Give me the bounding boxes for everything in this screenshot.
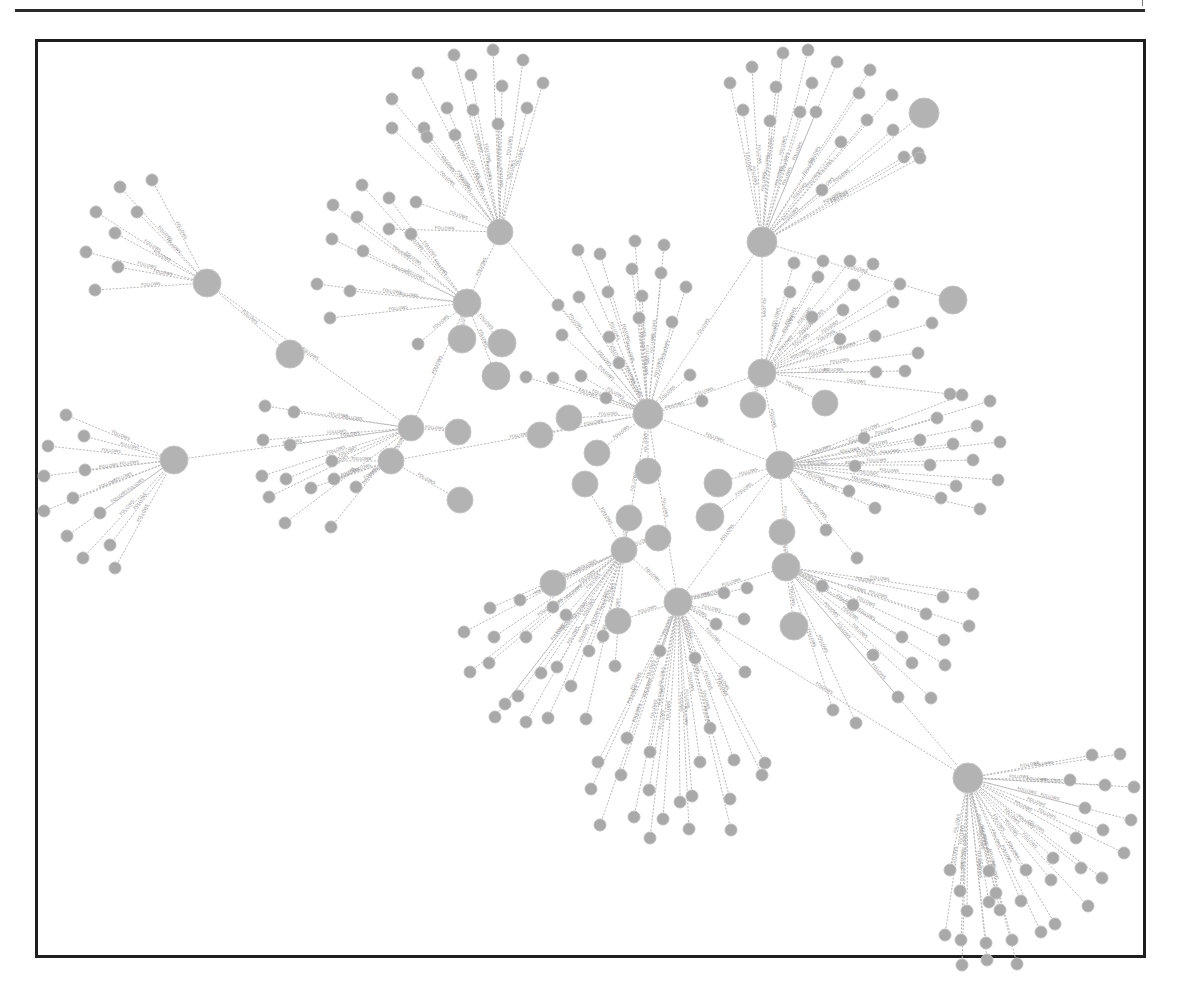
leaf-node[interactable] bbox=[1097, 824, 1109, 836]
leaf-node[interactable] bbox=[971, 420, 983, 432]
leaf-node[interactable] bbox=[684, 369, 696, 381]
leaf-node[interactable] bbox=[939, 929, 951, 941]
leaf-node[interactable] bbox=[109, 562, 121, 574]
leaf-node[interactable] bbox=[603, 331, 615, 343]
leaf-node[interactable] bbox=[109, 227, 121, 239]
leaf-node[interactable] bbox=[980, 937, 992, 949]
leaf-node[interactable] bbox=[386, 122, 398, 134]
leaf-node[interactable] bbox=[1096, 872, 1108, 884]
leaf-node[interactable] bbox=[1006, 934, 1018, 946]
leaf-node[interactable] bbox=[925, 692, 937, 704]
leaf-node[interactable] bbox=[61, 530, 73, 542]
satellite-node[interactable] bbox=[556, 405, 582, 431]
leaf-node[interactable] bbox=[974, 503, 986, 515]
leaf-node[interactable] bbox=[1035, 926, 1047, 938]
leaf-node[interactable] bbox=[78, 430, 90, 442]
hub-node[interactable] bbox=[772, 553, 800, 581]
satellite-node[interactable] bbox=[605, 608, 631, 634]
satellite-node[interactable] bbox=[572, 471, 598, 497]
leaf-node[interactable] bbox=[284, 439, 296, 451]
leaf-node[interactable] bbox=[847, 599, 859, 611]
leaf-node[interactable] bbox=[887, 296, 899, 308]
leaf-node[interactable] bbox=[383, 223, 395, 235]
leaf-node[interactable] bbox=[621, 732, 633, 744]
leaf-node[interactable] bbox=[853, 87, 865, 99]
leaf-node[interactable] bbox=[512, 690, 524, 702]
leaf-node[interactable] bbox=[657, 813, 669, 825]
leaf-node[interactable] bbox=[131, 206, 143, 218]
leaf-node[interactable] bbox=[458, 626, 470, 638]
leaf-node[interactable] bbox=[488, 631, 500, 643]
leaf-node[interactable] bbox=[886, 89, 898, 101]
leaf-node[interactable] bbox=[694, 756, 706, 768]
leaf-node[interactable] bbox=[1086, 749, 1098, 761]
satellite-node[interactable] bbox=[584, 440, 610, 466]
leaf-node[interactable] bbox=[861, 114, 873, 126]
leaf-node[interactable] bbox=[489, 711, 501, 723]
leaf-node[interactable] bbox=[867, 258, 879, 270]
leaf-node[interactable] bbox=[802, 44, 814, 56]
leaf-node[interactable] bbox=[950, 480, 962, 492]
leaf-node[interactable] bbox=[279, 517, 291, 529]
leaf-node[interactable] bbox=[683, 823, 695, 835]
leaf-node[interactable] bbox=[79, 464, 91, 476]
leaf-node[interactable] bbox=[674, 796, 686, 808]
leaf-node[interactable] bbox=[926, 317, 938, 329]
leaf-node[interactable] bbox=[816, 184, 828, 196]
hub-node[interactable] bbox=[160, 446, 188, 474]
leaf-node[interactable] bbox=[615, 769, 627, 781]
leaf-node[interactable] bbox=[483, 657, 495, 669]
leaf-node[interactable] bbox=[520, 631, 532, 643]
leaf-node[interactable] bbox=[602, 286, 614, 298]
satellite-node[interactable] bbox=[939, 286, 967, 314]
hub-node[interactable] bbox=[398, 415, 424, 441]
leaf-node[interactable] bbox=[521, 102, 533, 114]
leaf-node[interactable] bbox=[288, 406, 300, 418]
leaf-node[interactable] bbox=[626, 263, 638, 275]
leaf-node[interactable] bbox=[739, 666, 751, 678]
leaf-node[interactable] bbox=[654, 645, 666, 657]
leaf-node[interactable] bbox=[38, 470, 50, 482]
leaf-node[interactable] bbox=[738, 613, 750, 625]
leaf-node[interactable] bbox=[1118, 847, 1130, 859]
leaf-node[interactable] bbox=[869, 330, 881, 342]
leaf-node[interactable] bbox=[655, 267, 667, 279]
leaf-node[interactable] bbox=[759, 757, 771, 769]
leaf-node[interactable] bbox=[67, 492, 79, 504]
satellite-node[interactable] bbox=[704, 469, 732, 497]
satellite-node[interactable] bbox=[488, 329, 516, 357]
leaf-node[interactable] bbox=[737, 104, 749, 116]
leaf-node[interactable] bbox=[896, 631, 908, 643]
leaf-node[interactable] bbox=[449, 129, 461, 141]
leaf-node[interactable] bbox=[90, 206, 102, 218]
leaf-node[interactable] bbox=[492, 118, 504, 130]
leaf-node[interactable] bbox=[1128, 781, 1140, 793]
leaf-node[interactable] bbox=[954, 885, 966, 897]
leaf-node[interactable] bbox=[892, 691, 904, 703]
leaf-node[interactable] bbox=[887, 124, 899, 136]
leaf-node[interactable] bbox=[724, 793, 736, 805]
satellite-node[interactable] bbox=[769, 519, 795, 545]
leaf-node[interactable] bbox=[914, 152, 926, 164]
leaf-node[interactable] bbox=[257, 434, 269, 446]
satellite-node[interactable] bbox=[696, 503, 724, 531]
leaf-node[interactable] bbox=[38, 505, 50, 517]
leaf-node[interactable] bbox=[939, 659, 951, 671]
leaf-node[interactable] bbox=[831, 56, 843, 68]
leaf-node[interactable] bbox=[843, 485, 855, 497]
leaf-node[interactable] bbox=[1015, 895, 1027, 907]
leaf-node[interactable] bbox=[992, 474, 1004, 486]
leaf-node[interactable] bbox=[410, 196, 422, 208]
leaf-node[interactable] bbox=[784, 286, 796, 298]
leaf-node[interactable] bbox=[357, 245, 369, 257]
hub-node[interactable] bbox=[748, 359, 776, 387]
leaf-node[interactable] bbox=[597, 630, 609, 642]
leaf-node[interactable] bbox=[837, 304, 849, 316]
leaf-node[interactable] bbox=[746, 61, 758, 73]
leaf-node[interactable] bbox=[644, 832, 656, 844]
leaf-node[interactable] bbox=[464, 666, 476, 678]
leaf-node[interactable] bbox=[1049, 918, 1061, 930]
leaf-node[interactable] bbox=[994, 436, 1006, 448]
leaf-node[interactable] bbox=[572, 244, 584, 256]
leaf-node[interactable] bbox=[898, 151, 910, 163]
